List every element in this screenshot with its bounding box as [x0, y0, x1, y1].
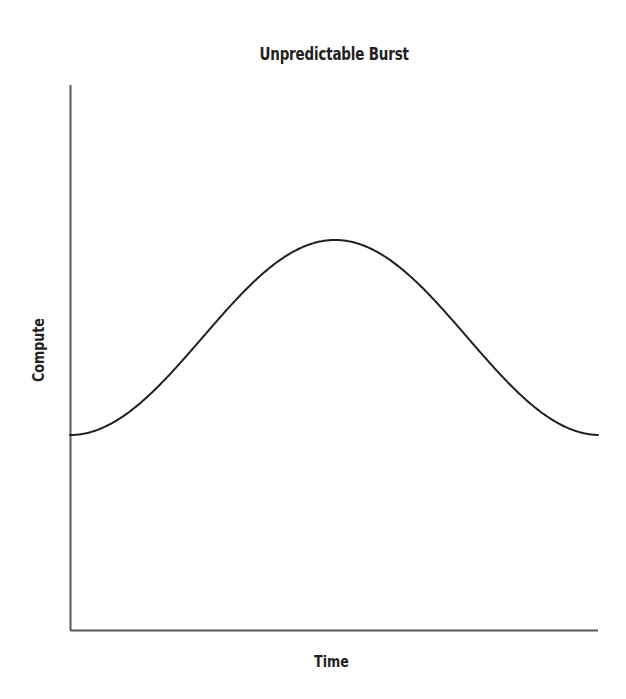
- x-axis-label: Time: [38, 652, 589, 671]
- data-line-series: [70, 240, 598, 435]
- y-axis-label: Compute: [29, 318, 48, 382]
- chart-figure: Unpredictable Burst Compute Time: [0, 0, 626, 699]
- plot-area: [0, 0, 626, 699]
